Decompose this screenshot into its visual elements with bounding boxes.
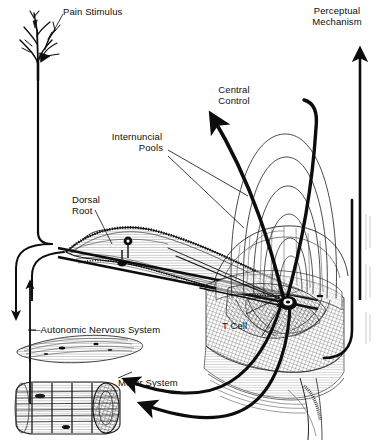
label-perceptual-mechanism-line2: Mechanism: [296, 16, 378, 28]
label-internuncial-pools-line2: Pools: [105, 142, 163, 154]
label-internuncial-pools-line1: Internuncial: [105, 131, 169, 143]
striated-muscle: [15, 382, 120, 434]
label-autonomic-nervous-system: —Autonomic Nervous System: [31, 324, 160, 336]
label-motor-system: Motor System: [118, 377, 178, 389]
diagram-artwork: [0, 0, 380, 443]
label-dorsal-root-line1: Dorsal: [72, 194, 100, 206]
label-t-cell: T Cell: [222, 320, 247, 332]
label-dorsal-root-line2: Root: [72, 205, 92, 217]
label-central-control-line1: Central: [208, 84, 260, 96]
label-central-control-line2: Control: [208, 95, 260, 107]
gate-control-pain-diagram: Pain Stimulus Perceptual Mechanism Centr…: [0, 0, 380, 443]
label-pain-stimulus: Pain Stimulus: [63, 6, 122, 18]
label-perceptual-mechanism-line1: Perceptual: [296, 5, 378, 17]
